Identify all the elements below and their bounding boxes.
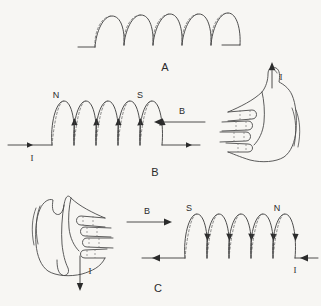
panel-a-coil-turn: [182, 14, 211, 45]
panel-c-current-arrowhead-left: [152, 255, 160, 262]
panel-a: A: [78, 13, 240, 73]
panel-b-thumb-current-arrowhead: [269, 62, 275, 70]
panel-a-coil-turn: [211, 13, 240, 45]
panel-c-field-arrowhead: [164, 219, 172, 226]
panel-c-thumb-current-arrowhead: [77, 283, 83, 291]
panel-c-south-pole-label: S: [186, 203, 192, 213]
panel-c-field-label: B: [144, 206, 150, 216]
panel-c-current-arrowhead-right: [300, 255, 308, 262]
right-hand-rule-figure: A: [0, 0, 321, 306]
panel-a-coil-turn: [124, 15, 153, 45]
panel-b-north-pole-label: N: [53, 90, 60, 100]
panel-b-thumb-current-label: I: [280, 72, 283, 82]
panel-b-label: B: [151, 166, 158, 178]
panel-b-current-arrowhead-right: [186, 142, 192, 148]
panel-b-right-hand: [220, 67, 300, 161]
panel-c-north-pole-label: N: [274, 203, 281, 213]
panel-b: N S I B: [8, 62, 300, 178]
panel-b-field-label: B: [179, 106, 185, 116]
panel-b-field-arrowhead: [154, 119, 162, 126]
panel-c-label: C: [154, 282, 162, 294]
panel-a-coil-turn: [95, 16, 124, 47]
panel-c-coil-turn: [273, 214, 299, 258]
panel-c-left-hand: [32, 196, 113, 276]
panel-a-label: A: [161, 61, 169, 73]
panel-b-current-arrowhead-left: [27, 142, 33, 148]
panel-c-current-label: I: [294, 265, 297, 275]
panel-b-current-label: I: [31, 153, 34, 163]
panel-c-thumb-current-label: I: [89, 266, 92, 276]
panel-c: I B: [32, 196, 318, 294]
panel-a-coil-turn: [153, 14, 182, 45]
panel-b-south-pole-label: S: [137, 90, 143, 100]
